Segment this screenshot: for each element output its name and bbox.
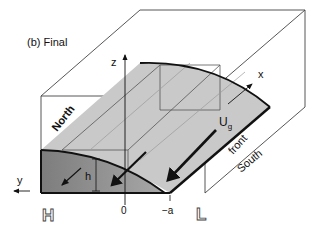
high-pressure-label: H (42, 206, 54, 225)
diagram-canvas: z x y h 0 −a (b) Final North Ug front So… (0, 0, 323, 236)
y-axis-label: y (17, 174, 23, 186)
frontal-geometry-diagram: z x y h 0 −a (b) Final North Ug front So… (0, 0, 323, 236)
z-axis-label: z (111, 56, 117, 68)
height-label: h (85, 170, 91, 182)
x-axis-label: x (258, 68, 264, 80)
tick-zero: 0 (121, 205, 127, 216)
tick-minus-a: −a (162, 205, 174, 216)
panel-label: (b) Final (27, 36, 67, 48)
low-pressure-label: L (196, 205, 206, 224)
